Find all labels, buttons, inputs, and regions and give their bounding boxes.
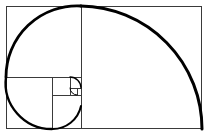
arc-largest xyxy=(81,6,202,129)
fibonacci-spiral-figure xyxy=(0,0,208,135)
fibonacci-spiral-canvas xyxy=(0,0,208,135)
arc-fourth xyxy=(52,106,81,129)
arc-fifth xyxy=(70,77,81,88)
arc-third xyxy=(6,77,52,129)
arc-sixth xyxy=(70,88,77,95)
arc-second xyxy=(6,6,81,77)
outer-frame-rectangle xyxy=(7,7,202,129)
